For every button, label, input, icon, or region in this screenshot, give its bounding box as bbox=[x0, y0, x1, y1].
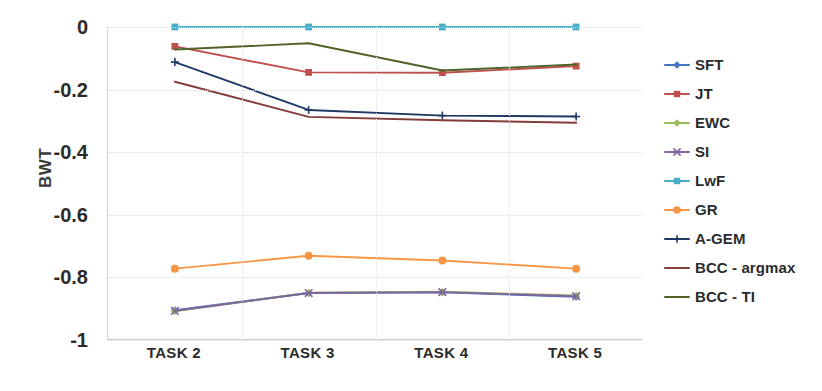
legend-label: BCC - TI bbox=[695, 288, 755, 305]
legend-swatch-icon bbox=[664, 116, 690, 130]
x-tick-label: TASK 3 bbox=[281, 344, 335, 361]
data-point-marker bbox=[673, 119, 680, 126]
legend-label: A-GEM bbox=[695, 230, 746, 247]
data-point-marker bbox=[305, 69, 312, 76]
legend-swatch-icon bbox=[664, 58, 690, 72]
legend-swatch-icon bbox=[664, 145, 690, 159]
y-tick-label: -0.4 bbox=[54, 141, 88, 164]
gridline-vertical bbox=[509, 27, 510, 340]
legend-item-bcc-argmax[interactable]: BCC - argmax bbox=[664, 253, 820, 282]
data-point-marker bbox=[673, 206, 681, 214]
x-tick-label: TASK 4 bbox=[414, 344, 468, 361]
y-tick-label: -0.2 bbox=[54, 78, 88, 101]
data-point-marker bbox=[572, 113, 580, 121]
data-point-marker bbox=[305, 252, 313, 260]
legend-item-ewc[interactable]: EWC bbox=[664, 108, 820, 137]
y-tick-label: -0.8 bbox=[54, 266, 88, 289]
legend-swatch-icon bbox=[664, 174, 690, 188]
legend-label: LwF bbox=[695, 172, 725, 189]
legend-label: SI bbox=[695, 143, 709, 160]
plot-area bbox=[107, 27, 642, 340]
legend-label: BCC - argmax bbox=[695, 259, 795, 276]
data-point-marker bbox=[305, 106, 313, 114]
x-axis-tick-labels: TASK 2TASK 3TASK 4TASK 5 bbox=[107, 344, 642, 374]
legend-swatch-icon bbox=[664, 203, 690, 217]
data-point-marker bbox=[674, 90, 680, 96]
y-tick-label: 0 bbox=[77, 16, 88, 39]
chart-root: BWT 0-0.2-0.4-0.6-0.8-1 TASK 2TASK 3TASK… bbox=[0, 0, 822, 391]
y-tick-label: -1 bbox=[70, 329, 88, 352]
gridline-horizontal bbox=[108, 340, 642, 341]
data-point-marker bbox=[673, 235, 681, 243]
legend-swatch-icon bbox=[664, 87, 690, 101]
legend-item-lwf[interactable]: LwF bbox=[664, 166, 820, 195]
legend-item-jt[interactable]: JT bbox=[664, 79, 820, 108]
legend-label: JT bbox=[695, 85, 713, 102]
y-tick-label: -0.6 bbox=[54, 203, 88, 226]
legend: SFTJTEWCSILwFGRA-GEMBCC - argmaxBCC - TI bbox=[664, 50, 820, 311]
legend-swatch-icon bbox=[664, 261, 690, 275]
y-axis-tick-labels: 0-0.2-0.4-0.6-0.8-1 bbox=[0, 0, 100, 391]
data-point-marker bbox=[438, 112, 446, 120]
legend-item-gr[interactable]: GR bbox=[664, 195, 820, 224]
gridline-vertical bbox=[376, 27, 377, 340]
data-point-marker bbox=[674, 177, 680, 183]
data-point-marker bbox=[438, 256, 446, 264]
x-tick-label: TASK 5 bbox=[548, 344, 602, 361]
legend-swatch-icon bbox=[664, 232, 690, 246]
legend-swatch-icon bbox=[664, 290, 690, 304]
legend-item-sft[interactable]: SFT bbox=[664, 50, 820, 79]
data-point-marker bbox=[673, 61, 680, 68]
legend-label: GR bbox=[695, 201, 718, 218]
data-point-marker bbox=[171, 58, 179, 66]
legend-item-si[interactable]: SI bbox=[664, 137, 820, 166]
data-point-marker bbox=[572, 265, 580, 273]
x-tick-label: TASK 2 bbox=[147, 344, 201, 361]
legend-item-bcc-ti[interactable]: BCC - TI bbox=[664, 282, 820, 311]
data-point-marker bbox=[171, 265, 179, 273]
legend-item-a-gem[interactable]: A-GEM bbox=[664, 224, 820, 253]
legend-label: SFT bbox=[695, 56, 724, 73]
legend-label: EWC bbox=[695, 114, 730, 131]
gridline-vertical bbox=[242, 27, 243, 340]
